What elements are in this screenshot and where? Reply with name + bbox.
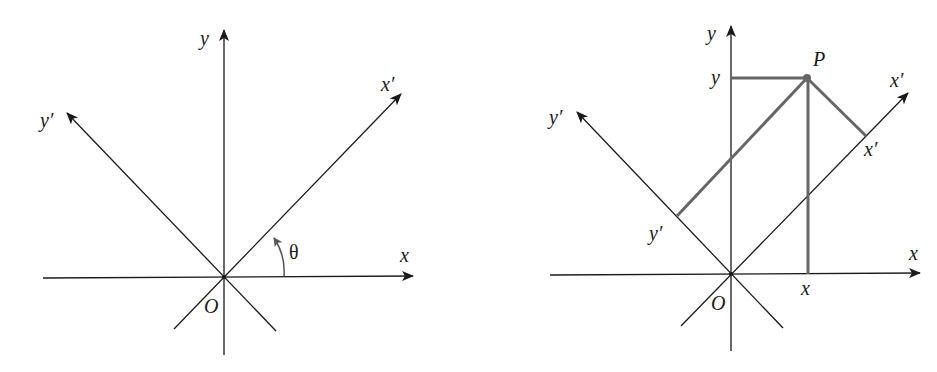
x-axis-label: x bbox=[908, 242, 918, 264]
y-coord-label: y bbox=[709, 66, 720, 89]
y-axis-label: y bbox=[198, 27, 209, 50]
origin-dot bbox=[729, 272, 733, 276]
projection-to-y-prime bbox=[677, 78, 807, 216]
point-p-label: P bbox=[812, 48, 825, 70]
origin-label: O bbox=[204, 295, 218, 317]
theta-label: θ bbox=[289, 241, 299, 263]
x-prime-axis-label: x′ bbox=[889, 69, 904, 91]
right-panel: y P y x′ y′ x′ y′ x x O bbox=[547, 22, 920, 351]
x-axis bbox=[550, 273, 920, 275]
y-axis-label: y bbox=[705, 22, 716, 45]
angle-arc-icon bbox=[274, 238, 284, 276]
x-prime-coord-label: x′ bbox=[863, 138, 878, 160]
left-panel: y x′ y′ x θ O bbox=[38, 27, 413, 355]
y-prime-axis bbox=[67, 113, 276, 331]
y-prime-axis-label: y′ bbox=[38, 109, 54, 132]
rotation-of-axes-figure: y x′ y′ x θ O y P y x′ y′ x′ y′ x x O bbox=[0, 0, 937, 372]
point-p bbox=[803, 74, 811, 82]
origin-label: O bbox=[711, 292, 725, 314]
y-prime-axis-label: y′ bbox=[547, 106, 563, 129]
x-axis bbox=[43, 276, 413, 278]
x-axis-label: x bbox=[399, 244, 409, 266]
y-prime-axis bbox=[577, 112, 783, 328]
origin-dot bbox=[222, 275, 226, 279]
x-coord-label: x bbox=[800, 277, 810, 299]
x-prime-axis bbox=[174, 94, 401, 329]
x-prime-axis-label: x′ bbox=[380, 73, 395, 95]
projection-to-x-prime bbox=[807, 78, 866, 136]
y-prime-coord-label: y′ bbox=[647, 222, 663, 245]
